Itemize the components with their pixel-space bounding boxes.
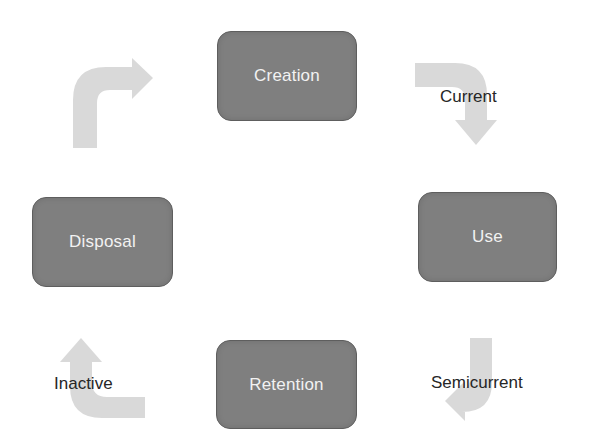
transition-label-current: Current <box>440 87 497 107</box>
stage-retention: Retention <box>216 340 357 429</box>
stage-disposal: Disposal <box>32 197 173 287</box>
stage-disposal-label: Disposal <box>69 232 136 252</box>
transition-label-semicurrent: Semicurrent <box>431 373 523 393</box>
transition-label-inactive: Inactive <box>54 374 113 394</box>
records-lifecycle-diagram: Creation Use Retention Disposal Current … <box>0 0 595 441</box>
stage-use-label: Use <box>472 227 503 247</box>
stage-creation-label: Creation <box>254 66 320 86</box>
stage-creation: Creation <box>217 31 357 121</box>
arrow-disposal-to-creation-icon <box>73 58 153 148</box>
stage-use: Use <box>418 192 557 282</box>
stage-retention-label: Retention <box>249 375 324 395</box>
